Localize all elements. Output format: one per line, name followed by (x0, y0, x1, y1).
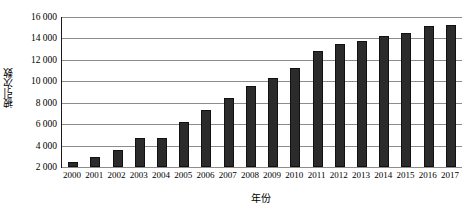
y-tick-label: 14 000 (31, 33, 57, 43)
bar (357, 41, 367, 167)
x-tick-label: 2013 (352, 170, 370, 180)
bar (201, 110, 211, 167)
bar (313, 51, 323, 167)
x-tick-label: 2003 (130, 170, 148, 180)
bar (246, 86, 256, 167)
x-tick-label: 2017 (441, 170, 459, 180)
bars-group (62, 17, 462, 167)
bar (446, 25, 456, 168)
y-axis-title: 被引次数 (0, 0, 16, 175)
x-tick-label: 2011 (308, 170, 326, 180)
x-tick-label: 2009 (263, 170, 281, 180)
x-tick-label: 2014 (374, 170, 392, 180)
x-tick-label: 2002 (108, 170, 126, 180)
bar (90, 157, 100, 167)
y-tick-label: 4 000 (36, 141, 57, 151)
bar (401, 33, 411, 167)
bar (424, 26, 434, 167)
bar (224, 98, 234, 167)
bar (157, 138, 167, 167)
bar (268, 78, 278, 167)
x-tick-label: 2008 (241, 170, 259, 180)
x-tick-label: 2007 (219, 170, 237, 180)
y-axis-title-label: 被引次数 (1, 68, 16, 108)
x-axis-tick-labels: 2000200120022003200420052006200720082009… (61, 170, 461, 186)
y-tick-label: 16 000 (31, 12, 57, 22)
x-tick-label: 2010 (285, 170, 303, 180)
y-tick-label: 8 000 (36, 98, 57, 108)
bar (335, 44, 345, 167)
y-tick-label: 12 000 (31, 55, 57, 65)
x-tick-label: 2004 (152, 170, 170, 180)
y-tick-label: 6 000 (36, 119, 57, 129)
gridline-2000 (62, 167, 462, 168)
bar (179, 122, 189, 167)
x-tick-label: 2006 (196, 170, 214, 180)
x-tick-label: 2005 (174, 170, 192, 180)
bar (113, 150, 123, 167)
y-tick-label: 2 000 (36, 162, 57, 172)
x-tick-label: 2016 (419, 170, 437, 180)
bar-chart: 被引次数 16 00014 00012 00010 0008 0006 0004… (0, 0, 465, 216)
plot-area (61, 17, 462, 168)
x-tick-label: 2015 (396, 170, 414, 180)
x-axis-title: 年份 (61, 190, 461, 205)
bar (379, 36, 389, 167)
y-axis-tick-labels: 16 00014 00012 00010 0008 0006 0004 0002… (16, 0, 60, 175)
x-tick-label: 2012 (330, 170, 348, 180)
bar (135, 138, 145, 167)
y-tick-label: 10 000 (31, 76, 57, 86)
bar (68, 162, 78, 167)
x-tick-label: 2000 (63, 170, 81, 180)
bar (290, 68, 300, 167)
x-tick-label: 2001 (85, 170, 103, 180)
